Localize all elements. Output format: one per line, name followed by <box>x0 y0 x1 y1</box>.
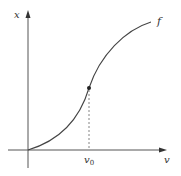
function-diagram: x f v0 v <box>0 0 181 176</box>
y-axis-arrow-icon <box>26 10 31 18</box>
curve-label-f: f <box>156 15 163 28</box>
x-axis-arrow-icon <box>159 148 167 153</box>
x-axis-label: v <box>164 154 170 165</box>
inflection-point-dot <box>87 86 91 90</box>
v0-label-subscript: 0 <box>90 159 94 167</box>
v0-label: v0 <box>84 154 94 167</box>
y-axis-label: x <box>14 9 20 20</box>
curve-f <box>28 22 151 150</box>
